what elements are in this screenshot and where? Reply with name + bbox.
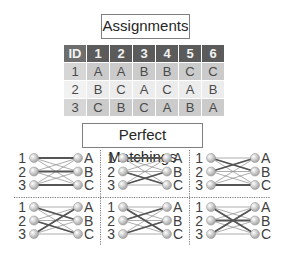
right-label: C bbox=[261, 177, 271, 193]
right-node bbox=[74, 181, 83, 190]
left-node bbox=[207, 167, 216, 176]
right-node bbox=[74, 216, 83, 225]
right-node bbox=[74, 154, 83, 163]
left-label: 3 bbox=[195, 226, 203, 242]
left-node bbox=[207, 230, 216, 239]
left-node bbox=[30, 216, 39, 225]
right-node bbox=[251, 181, 260, 190]
right-node bbox=[163, 181, 172, 190]
left-node bbox=[30, 167, 39, 176]
left-label: 3 bbox=[107, 226, 115, 242]
right-node bbox=[251, 216, 260, 225]
left-label: 3 bbox=[18, 177, 26, 193]
matching-panel: 1A2B3C bbox=[107, 199, 183, 242]
left-node bbox=[119, 154, 128, 163]
matching-panel: 1A2B3C bbox=[18, 199, 94, 242]
matching-panel: 1A2B3C bbox=[18, 150, 94, 193]
left-node bbox=[119, 216, 128, 225]
right-node bbox=[74, 203, 83, 212]
right-node bbox=[74, 230, 83, 239]
left-node bbox=[119, 203, 128, 212]
right-node bbox=[251, 154, 260, 163]
right-label: C bbox=[84, 177, 94, 193]
matching-panel: 1A2B3C bbox=[195, 199, 271, 242]
right-node bbox=[163, 203, 172, 212]
right-label: C bbox=[173, 177, 183, 193]
bipartite-graphs: 1A2B3C1A2B3C1A2B3C1A2B3C1A2B3C1A2B3C bbox=[0, 0, 283, 258]
right-node bbox=[251, 167, 260, 176]
left-label: 3 bbox=[18, 226, 26, 242]
right-node bbox=[163, 230, 172, 239]
left-node bbox=[30, 230, 39, 239]
right-label: C bbox=[173, 226, 183, 242]
left-node bbox=[119, 167, 128, 176]
right-label: C bbox=[84, 226, 94, 242]
left-node bbox=[207, 216, 216, 225]
right-node bbox=[163, 154, 172, 163]
left-node bbox=[30, 203, 39, 212]
left-node bbox=[119, 230, 128, 239]
left-node bbox=[207, 203, 216, 212]
left-node bbox=[30, 154, 39, 163]
right-node bbox=[74, 167, 83, 176]
right-label: C bbox=[261, 226, 271, 242]
left-node bbox=[207, 154, 216, 163]
left-node bbox=[207, 181, 216, 190]
left-node bbox=[119, 181, 128, 190]
left-node bbox=[30, 181, 39, 190]
right-node bbox=[251, 203, 260, 212]
left-label: 3 bbox=[107, 177, 115, 193]
matchings-grid: 1A2B3C1A2B3C1A2B3C1A2B3C1A2B3C1A2B3C bbox=[0, 0, 283, 258]
right-node bbox=[163, 216, 172, 225]
matching-panel: 1A2B3C bbox=[195, 150, 271, 193]
right-node bbox=[163, 167, 172, 176]
right-node bbox=[251, 230, 260, 239]
matching-panel: 1A2B3C bbox=[107, 150, 183, 193]
left-label: 3 bbox=[195, 177, 203, 193]
